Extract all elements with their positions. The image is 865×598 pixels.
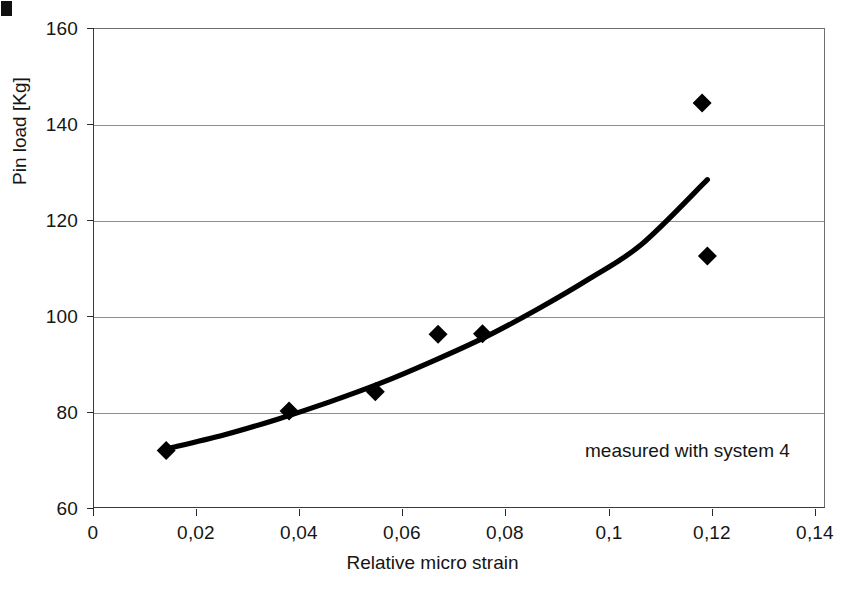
x-tick-label-012: 0,12 bbox=[667, 523, 757, 542]
x-tick-label-002: 0,02 bbox=[151, 523, 241, 542]
x-tick-014 bbox=[815, 509, 816, 516]
chart-annotation: measured with system 4 bbox=[585, 441, 790, 460]
x-tick-label-014: 0,14 bbox=[770, 523, 860, 542]
x-tick-label-008: 0,08 bbox=[460, 523, 550, 542]
x-tick-002 bbox=[196, 509, 197, 516]
x-tick-006 bbox=[402, 509, 403, 516]
x-tick-label-006: 0,06 bbox=[357, 523, 447, 542]
x-tick-0 bbox=[93, 509, 94, 516]
y-tick-label-160: 160 bbox=[18, 19, 78, 38]
y-axis-title: Pin load [Kg] bbox=[10, 77, 29, 185]
y-tick-120 bbox=[87, 220, 94, 221]
x-tick-label-01: 0,1 bbox=[564, 523, 654, 542]
gridline-100 bbox=[94, 317, 824, 318]
gridline-120 bbox=[94, 221, 824, 222]
x-tick-008 bbox=[505, 509, 506, 516]
gridline-140 bbox=[94, 125, 824, 126]
gridline-80 bbox=[94, 413, 824, 414]
x-tick-label-004: 0,04 bbox=[254, 523, 344, 542]
y-tick-label-120: 120 bbox=[18, 211, 78, 230]
y-tick-160 bbox=[87, 28, 94, 29]
scan-corner-artifact bbox=[1, 1, 12, 16]
x-axis-title: Relative micro strain bbox=[0, 553, 865, 572]
x-tick-01 bbox=[609, 509, 610, 516]
y-tick-140 bbox=[87, 124, 94, 125]
y-tick-100 bbox=[87, 316, 94, 317]
y-tick-label-60: 60 bbox=[18, 499, 78, 518]
y-tick-label-80: 80 bbox=[18, 403, 78, 422]
plot-area bbox=[93, 28, 825, 508]
x-tick-label-0: 0 bbox=[48, 523, 138, 542]
y-tick-label-100: 100 bbox=[18, 307, 78, 326]
y-tick-80 bbox=[87, 412, 94, 413]
chart-figure: 160 140 120 100 80 60 0 0,02 0,04 0,06 0… bbox=[0, 0, 865, 598]
x-tick-012 bbox=[712, 509, 713, 516]
x-tick-004 bbox=[299, 509, 300, 516]
